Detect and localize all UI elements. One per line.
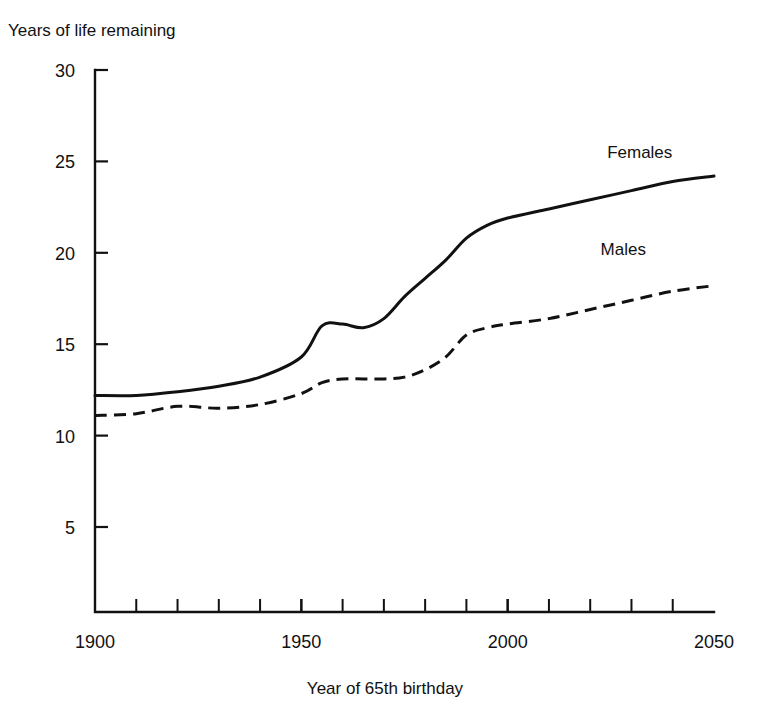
x-tick-label-1900: 1900 (75, 632, 115, 652)
series-label-males: Males (601, 240, 646, 259)
y-tick-label-5: 5 (65, 518, 75, 538)
y-axis-title: Years of life remaining (8, 21, 176, 40)
y-tick-label-10: 10 (55, 427, 75, 447)
series-line-males (95, 286, 714, 416)
y-tick-label-15: 15 (55, 335, 75, 355)
y-tick-label-25: 25 (55, 152, 75, 172)
series-annotations: FemalesMales (601, 143, 673, 259)
series-label-females: Females (607, 143, 672, 162)
y-axis-ticks: 51015202530 (55, 61, 108, 538)
x-axis-major-ticks: 1900195020002050 (75, 599, 734, 652)
x-tick-label-1950: 1950 (281, 632, 321, 652)
x-tick-label-2000: 2000 (488, 632, 528, 652)
series-line-females (95, 176, 714, 396)
y-tick-label-20: 20 (55, 244, 75, 264)
x-axis-minor-ticks (136, 599, 672, 612)
x-axis-title: Year of 65th birthday (307, 679, 464, 698)
x-tick-label-2050: 2050 (694, 632, 734, 652)
data-series-group (95, 176, 714, 415)
chart-container: Years of life remaining 51015202530 1900… (0, 0, 770, 718)
life-expectancy-line-chart: Years of life remaining 51015202530 1900… (0, 0, 770, 718)
y-tick-label-30: 30 (55, 61, 75, 81)
